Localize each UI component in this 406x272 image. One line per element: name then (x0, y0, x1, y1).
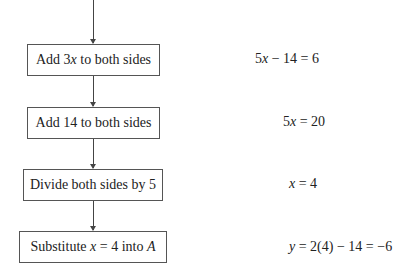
eq-part: 5 (283, 114, 290, 129)
arrow-entry (93, 0, 94, 43)
eq-part: 5 (255, 51, 262, 66)
step-text: Substitute (31, 239, 91, 255)
result-1: 5x − 14 = 6 (255, 51, 319, 67)
step-text: to both sides (77, 52, 151, 68)
arrow-1-2 (93, 76, 94, 106)
eq-part: − 14 = 6 (268, 51, 319, 66)
eq-part: = 20 (296, 114, 325, 129)
step-substitute: Substitute x = 4 into A (19, 231, 167, 263)
arrow-2-3 (93, 139, 94, 168)
result-2: 5x = 20 (283, 114, 325, 130)
arrow-3-4 (93, 201, 94, 230)
step-add-14: Add 14 to both sides (27, 107, 160, 139)
step-add-3x: Add 3x to both sides (27, 44, 160, 76)
step-text: Add 3 (36, 52, 71, 68)
result-3: x = 4 (289, 176, 317, 192)
step-text: Divide both sides by 5 (30, 177, 156, 193)
step-var: A (147, 239, 156, 255)
step-text: Add 14 to both sides (36, 115, 152, 131)
eq-part: = 2(4) − 14 = −6 (295, 239, 392, 254)
eq-part: = 4 (295, 176, 317, 191)
result-4: y = 2(4) − 14 = −6 (289, 239, 392, 255)
step-divide-5: Divide both sides by 5 (23, 169, 163, 201)
step-text: = 4 into (96, 239, 147, 255)
